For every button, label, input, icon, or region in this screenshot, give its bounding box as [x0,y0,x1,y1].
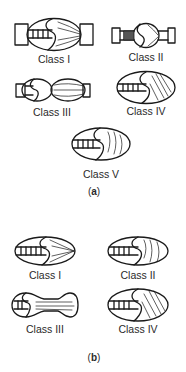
label-class-iii-b: Class III [26,323,64,335]
class-iv-b-shape [108,289,168,321]
class-iii-b-shape [12,293,78,317]
label-class-iv-b: Class IV [118,323,157,335]
label-class-iv-a: Class IV [126,105,165,117]
class-i-a-shape [15,19,93,51]
panel-a-caption: (a) [88,186,100,197]
label-class-ii-a: Class II [128,51,163,63]
panel-b-caption: (b) [88,352,101,363]
class-i-b-shape [15,237,75,265]
class-ii-b-shape [108,237,168,265]
label-class-ii-b: Class II [120,269,155,281]
class-ii-a-shape [112,24,175,48]
label-class-v-a: Class V [83,168,119,180]
class-iii-a-shape [16,79,90,101]
label-class-i-b: Class I [29,269,61,281]
class-iv-a-shape [117,72,175,104]
class-v-a-shape [72,128,130,160]
label-class-i-a: Class I [38,53,70,65]
label-class-iii-a: Class III [33,106,71,118]
